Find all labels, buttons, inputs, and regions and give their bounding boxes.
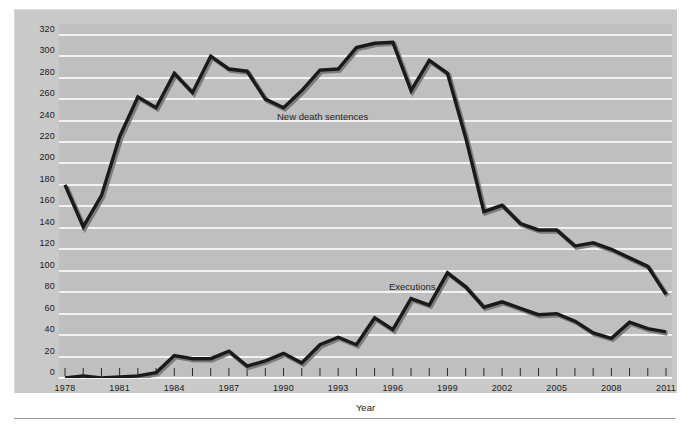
series-line-new-death-sentences <box>65 42 666 294</box>
y-axis-tick-label: 0 <box>50 367 55 377</box>
series-label-executions: Executions <box>389 281 435 292</box>
series-line-shadow <box>67 44 668 296</box>
series-line-executions <box>65 273 666 378</box>
x-axis-tick-label: 1990 <box>273 383 294 393</box>
x-axis-tick-label: 1999 <box>437 383 458 393</box>
y-axis-tick-label: 160 <box>39 195 55 205</box>
y-axis-tick-label: 240 <box>39 110 55 120</box>
y-axis-tick-label: 260 <box>39 88 55 98</box>
x-axis-tick-label: 2002 <box>492 383 513 393</box>
y-axis-tick-label: 220 <box>39 131 55 141</box>
y-axis-tick-label: 60 <box>45 303 55 313</box>
y-axis-tick-label: 140 <box>39 217 55 227</box>
x-axis-tick-labels: 1978198119841987199019931996199920022005… <box>59 383 672 397</box>
bottom-divider <box>14 418 676 419</box>
y-axis-tick-label: 200 <box>39 152 55 162</box>
x-axis-title: Year <box>59 402 672 413</box>
y-axis-tick-label: 120 <box>39 238 55 248</box>
series-lines <box>59 24 672 378</box>
y-axis-tick-label: 320 <box>39 24 55 34</box>
y-axis-tick-label: 180 <box>39 174 55 184</box>
plot-area <box>59 24 672 378</box>
x-axis-tick-label: 1984 <box>164 383 185 393</box>
chart-page: 0204060801001201401601802002202402602803… <box>0 0 689 428</box>
x-axis-tick-label: 1996 <box>382 383 403 393</box>
x-axis-tick-label: 1987 <box>218 383 239 393</box>
y-axis-tick-label: 280 <box>39 67 55 77</box>
x-axis-tick-label: 2005 <box>546 383 567 393</box>
y-axis-tick-label: 40 <box>45 324 55 334</box>
y-axis-tick-label: 300 <box>39 45 55 55</box>
y-axis-tick-labels: 0204060801001201401601802002202402602803… <box>29 24 55 378</box>
x-axis-tick-label: 2008 <box>601 383 622 393</box>
figure-panel: 0204060801001201401601802002202402602803… <box>14 9 677 393</box>
y-axis-tick-label: 20 <box>45 346 55 356</box>
x-axis-tick-label: 1981 <box>109 383 130 393</box>
x-axis-tick-label: 1978 <box>55 383 76 393</box>
x-axis-tick-label: 2011 <box>656 383 676 393</box>
y-axis-tick-label: 80 <box>45 281 55 291</box>
x-axis-tick-label: 1993 <box>328 383 349 393</box>
y-axis-tick-label: 100 <box>39 260 55 270</box>
series-label-new-death-sentences: New death sentences <box>277 111 368 122</box>
